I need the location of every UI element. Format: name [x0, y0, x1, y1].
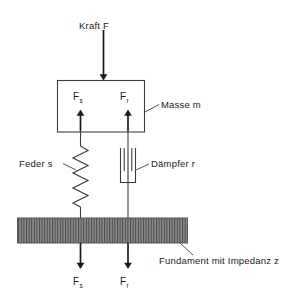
foundation-leader-line [180, 243, 193, 255]
mass-leader-line [145, 105, 159, 113]
spring-leader-line [63, 164, 76, 171]
force-subscript: r [126, 97, 129, 104]
force-label-damper-inner: Fr [120, 91, 129, 104]
force-subscript: s [79, 97, 83, 104]
force-label-spring-bottom: Fs [73, 276, 83, 289]
mass-label: Masse m [161, 99, 201, 110]
spring-element [73, 132, 88, 218]
damper-leader-line [136, 164, 149, 170]
foundation-label: Fundament mit Impedanz z [159, 255, 279, 266]
damper-label: Dämpfer r [151, 158, 195, 169]
force-subscript: r [126, 282, 129, 289]
force-subscript: s [79, 282, 83, 289]
diagram-canvas: Kraft F Fs Fr Masse m Feder s Dämpfer r … [0, 0, 305, 305]
force-label-spring-inner: Fs [73, 91, 83, 104]
damper-element [121, 132, 136, 218]
spring-label: Feder s [19, 158, 53, 169]
foundation-block [18, 218, 188, 243]
mass-block [58, 81, 145, 133]
external-force-label: Kraft F [79, 20, 109, 31]
force-label-damper-bottom: Fr [120, 276, 129, 289]
